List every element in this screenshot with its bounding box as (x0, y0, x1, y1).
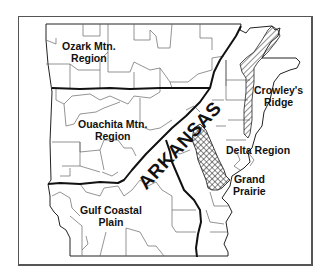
label-grand-prairie: Grand Prairie (233, 173, 266, 197)
label-line: Ridge (254, 96, 303, 108)
label-ouachita-region: Ouachita Mtn. Region (78, 118, 147, 142)
label-crowleys-ridge: Crowley's Ridge (254, 84, 303, 108)
label-line: Grand (233, 173, 266, 185)
label-line: Delta Region (226, 144, 290, 156)
label-line: Ouachita Mtn. (78, 118, 147, 130)
label-line: Crowley's (254, 84, 303, 96)
label-line: Plain (80, 216, 142, 228)
label-ozark-region: Ozark Mtn. Region (62, 40, 116, 64)
label-line: Region (62, 52, 116, 64)
label-line: Ozark Mtn. (62, 40, 116, 52)
label-line: Prairie (233, 185, 266, 197)
label-delta-region: Delta Region (226, 144, 290, 156)
label-line: Region (78, 130, 147, 142)
ozark-ouachita-boundary (52, 88, 210, 89)
label-line: Gulf Coastal (80, 204, 142, 216)
arkansas-region-map (0, 0, 325, 279)
label-gulf-coastal-plain: Gulf Coastal Plain (80, 204, 142, 228)
